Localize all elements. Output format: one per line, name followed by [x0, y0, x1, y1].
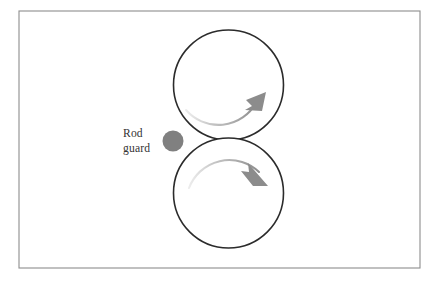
upper-roller-group — [174, 30, 284, 140]
rod-guard-diagram: Rod guard — [0, 0, 440, 287]
rod-guard-dot — [163, 131, 184, 152]
lower-roller-group — [174, 138, 284, 248]
rod-guard-label-line1: Rod — [123, 127, 143, 140]
lower-roller-circle — [174, 138, 284, 248]
rod-guard-label-line2: guard — [123, 142, 150, 155]
figure-root: Rod guard — [0, 0, 440, 287]
